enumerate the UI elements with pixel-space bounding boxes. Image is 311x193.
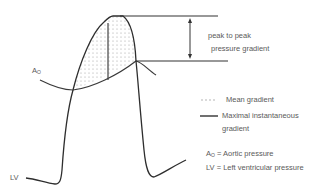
ao-label: AO xyxy=(32,67,41,75)
legend-maximal-line2: gradient xyxy=(222,125,249,133)
legend-lv-definition: LV = Left ventricular pressure xyxy=(206,164,304,172)
legend-dots-icon xyxy=(201,99,214,100)
legend-mean-gradient: Mean gradient xyxy=(226,96,274,104)
legend-maximal-line1: Maximal instantaneous xyxy=(222,112,299,120)
peak-label-line2: pressure gradient xyxy=(211,45,269,53)
lv-label: LV xyxy=(10,174,19,182)
peak-label-line1: peak to peak xyxy=(208,32,251,40)
legend-ao-definition: AO = Aortic pressure xyxy=(206,150,273,158)
ao-label-sub: O xyxy=(37,69,41,75)
legend-ao-text: = Aortic pressure xyxy=(215,149,274,158)
peak-to-peak-arrow xyxy=(188,18,192,59)
